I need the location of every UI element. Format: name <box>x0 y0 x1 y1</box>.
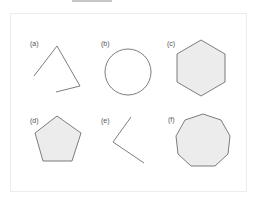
panel-label-c: (c) <box>167 40 175 47</box>
shape-c-hexagon <box>177 40 225 96</box>
shapes-figure <box>0 0 255 197</box>
panel-label-f: (f) <box>168 116 175 123</box>
shape-d-pentagon <box>35 116 81 161</box>
panel-label-e: (e) <box>101 117 110 124</box>
shape-f-nonagon <box>176 114 230 166</box>
panel-label-b: (b) <box>101 40 110 47</box>
shape-e-open-polyline <box>113 117 144 163</box>
panel-label-d: (d) <box>30 117 39 124</box>
panel-label-a: (a) <box>30 40 39 47</box>
shape-a-open-polyline <box>34 46 80 92</box>
shape-b-circle <box>105 49 151 95</box>
